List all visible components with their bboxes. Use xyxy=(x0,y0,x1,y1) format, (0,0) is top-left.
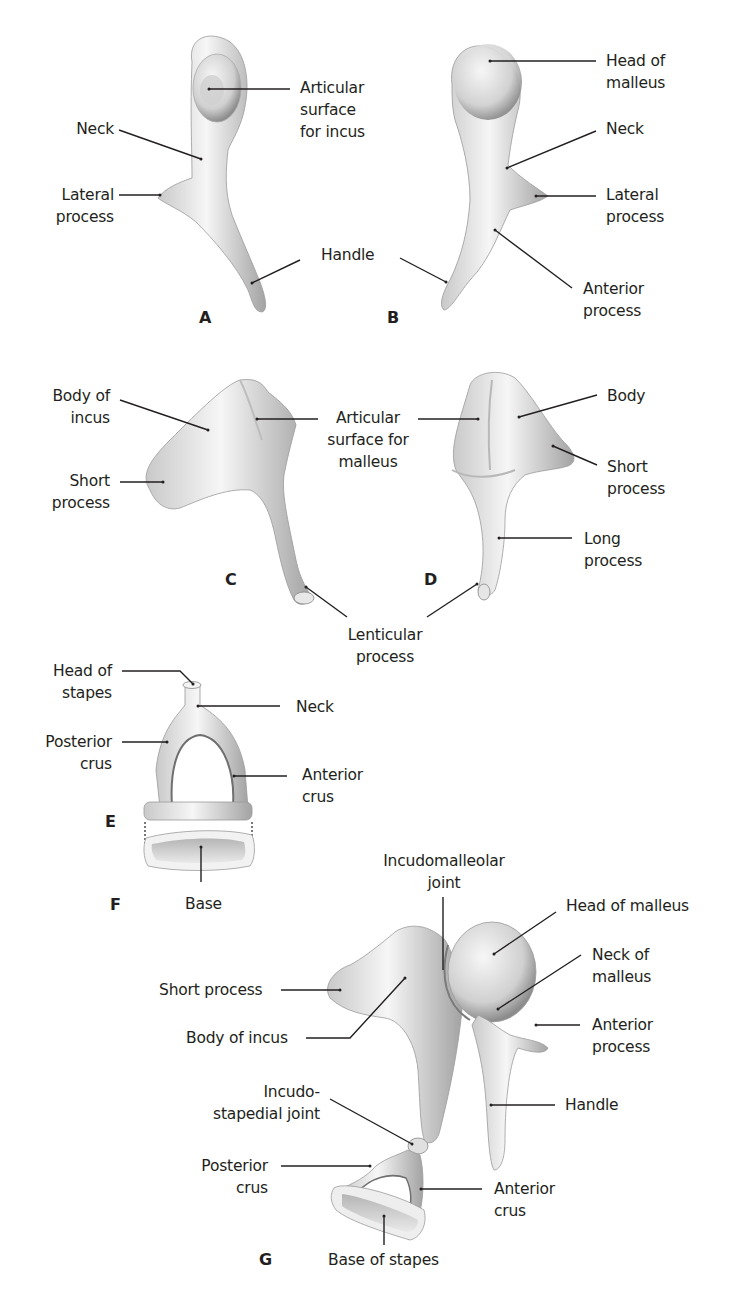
label-d-body: Body xyxy=(607,385,645,407)
label-b-anterior-process: Anterior process xyxy=(583,278,644,322)
label-a-articular-surface-for-incus: Articular surface for incus xyxy=(300,77,365,143)
panel-label-b: B xyxy=(387,308,399,327)
panel-label-a: A xyxy=(199,308,211,327)
malleus-a xyxy=(158,36,266,312)
label-g-head-of-malleus: Head of malleus xyxy=(566,895,689,917)
panel-label-c: C xyxy=(225,570,237,589)
panel-label-f: F xyxy=(110,895,121,914)
label-c-short-process: Short process xyxy=(20,470,110,514)
panel-label-d: D xyxy=(424,570,437,589)
label-g-incudomalleolar-joint: Incudomalleolar joint xyxy=(380,850,508,894)
label-a-neck: Neck xyxy=(50,118,114,140)
label-b-neck: Neck xyxy=(606,118,644,140)
label-e-head-of-stapes: Head of stapes xyxy=(20,660,112,704)
label-lenticular-process: Lenticular process xyxy=(330,624,440,668)
panel-label-g: G xyxy=(259,1250,272,1269)
label-g-neck-of-malleus: Neck of malleus xyxy=(592,944,651,988)
label-e-anterior-crus: Anterior crus xyxy=(302,764,363,808)
panel-label-e: E xyxy=(105,812,116,831)
label-handle: Handle xyxy=(321,244,374,266)
label-g-incudostapedial-joint: Incudo- stapedial joint xyxy=(196,1081,320,1125)
label-g-posterior-crus: Posterior crus xyxy=(180,1155,268,1199)
label-a-lateral-process: Lateral process xyxy=(30,184,114,228)
label-b-head-of-malleus: Head of malleus xyxy=(606,50,665,94)
label-c-body-of-incus: Body of incus xyxy=(20,385,110,429)
label-g-base-of-stapes: Base of stapes xyxy=(328,1249,439,1271)
label-g-anterior-crus: Anterior crus xyxy=(494,1178,555,1222)
label-g-anterior-process: Anterior process xyxy=(592,1014,653,1058)
label-g-short-process: Short process xyxy=(159,979,263,1001)
label-e-neck: Neck xyxy=(296,696,334,718)
label-d-short-process: Short process xyxy=(607,456,665,500)
label-f-base: Base xyxy=(185,893,222,915)
malleus-b xyxy=(442,44,548,310)
label-articular-surface-for-malleus: Articular surface for malleus xyxy=(310,407,426,473)
label-b-lateral-process: Lateral process xyxy=(606,184,664,228)
ossicles-diagram: Articular surface for incus Neck Lateral… xyxy=(0,0,734,1312)
label-e-posterior-crus: Posterior crus xyxy=(20,731,112,775)
label-g-handle: Handle xyxy=(565,1094,618,1116)
label-g-body-of-incus: Body of incus xyxy=(186,1027,288,1049)
label-d-long-process: Long process xyxy=(584,528,642,572)
